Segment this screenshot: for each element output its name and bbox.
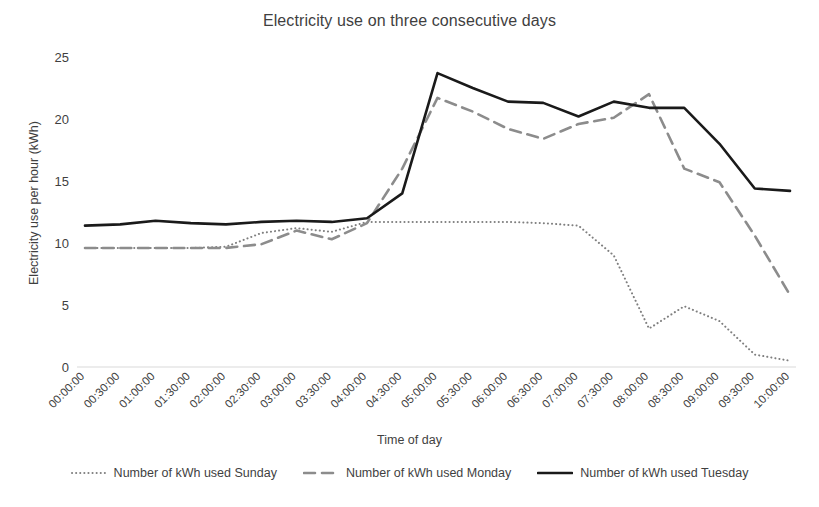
chart-legend: Number of kWh used SundayNumber of kWh u…: [0, 466, 819, 480]
legend-item[interactable]: Number of kWh used Monday: [303, 466, 511, 480]
legend-swatch-icon: [71, 467, 107, 479]
legend-item[interactable]: Number of kWh used Sunday: [71, 466, 277, 480]
y-axis-tick-label: 15: [55, 174, 69, 189]
x-axis-tick-label: 04:00:00: [328, 370, 368, 410]
x-axis-tick-label: 07:30:00: [575, 370, 615, 410]
legend-label: Number of kWh used Monday: [346, 466, 511, 480]
x-axis-tick-label: 07:00:00: [540, 370, 580, 410]
y-axis-tick-label: 20: [55, 112, 69, 127]
series-line: [85, 73, 790, 226]
series-line: [85, 94, 790, 295]
x-axis-tick-label: 09:30:00: [716, 370, 756, 410]
x-axis-tick-label: 08:30:00: [646, 370, 686, 410]
y-axis-tick-label: 10: [55, 236, 69, 251]
legend-label: Number of kWh used Sunday: [114, 466, 277, 480]
series-line: [85, 222, 790, 361]
chart-container: Electricity use on three consecutive day…: [0, 0, 819, 507]
x-axis-tick-label: 02:30:00: [223, 370, 263, 410]
plot-area: 051015202500:00:0000:30:0001:00:0001:30:…: [0, 0, 819, 460]
x-axis-tick-label: 04:30:00: [364, 370, 404, 410]
x-axis-tick-label: 05:30:00: [434, 370, 474, 410]
y-axis-tick-label: 25: [55, 50, 69, 65]
x-axis-tick-label: 10:00:00: [751, 370, 791, 410]
x-axis-tick-label: 03:00:00: [258, 370, 298, 410]
x-axis-title: Time of day: [0, 433, 819, 447]
x-axis-tick-label: 06:00:00: [469, 370, 509, 410]
legend-swatch-icon: [537, 467, 573, 479]
x-axis-tick-label: 03:30:00: [293, 370, 333, 410]
x-axis-tick-label: 09:00:00: [681, 370, 721, 410]
x-axis-tick-label: 02:00:00: [187, 370, 227, 410]
y-axis-tick-label: 0: [62, 360, 69, 375]
x-axis-tick-label: 01:30:00: [152, 370, 192, 410]
legend-swatch-icon: [303, 467, 339, 479]
x-axis-tick-label: 00:30:00: [82, 370, 122, 410]
legend-label: Number of kWh used Tuesday: [580, 466, 748, 480]
x-axis-tick-label: 00:00:00: [46, 370, 86, 410]
x-axis-tick-label: 05:00:00: [399, 370, 439, 410]
x-axis-tick-label: 06:30:00: [505, 370, 545, 410]
x-axis-tick-label: 08:00:00: [610, 370, 650, 410]
legend-item[interactable]: Number of kWh used Tuesday: [537, 466, 748, 480]
x-axis-tick-label: 01:00:00: [117, 370, 157, 410]
y-axis-tick-label: 5: [62, 298, 69, 313]
